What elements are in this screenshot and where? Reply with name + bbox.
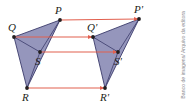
point-Q-label: Q xyxy=(8,22,16,33)
point-R-prime xyxy=(103,86,107,90)
point-P-label: P xyxy=(55,5,62,16)
point-Q xyxy=(12,35,16,39)
point-Q-prime-label: Q' xyxy=(87,22,97,33)
point-Q-prime xyxy=(91,35,95,39)
translation-arrow-P xyxy=(61,19,138,20)
point-R xyxy=(25,86,29,90)
translation-figure: PQSRP'Q'S'R' Banco de imagens/ Arquivo d… xyxy=(0,0,191,110)
point-S-prime xyxy=(116,50,120,54)
original-figure xyxy=(14,20,60,88)
point-P-prime-label: P' xyxy=(134,4,143,15)
point-S-label: S xyxy=(35,56,41,67)
point-S-prime-label: S' xyxy=(114,56,122,67)
image-credit-text: Banco de imagens/ Arquivo da editora xyxy=(180,11,186,99)
shapes-group xyxy=(14,19,139,88)
point-P-prime xyxy=(137,17,141,21)
image-credit: Banco de imagens/ Arquivo da editora xyxy=(176,0,190,110)
point-R-prime-label: R' xyxy=(100,92,109,103)
point-S xyxy=(38,50,42,54)
point-P xyxy=(58,18,62,22)
point-R-label: R xyxy=(22,92,29,103)
